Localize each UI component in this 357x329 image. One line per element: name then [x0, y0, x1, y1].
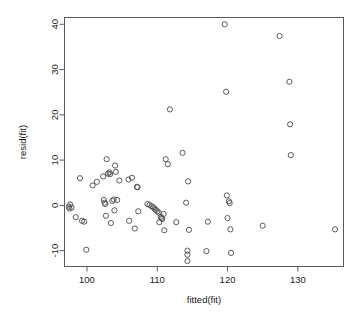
data-point: [167, 107, 172, 112]
data-point: [136, 209, 141, 214]
data-point: [228, 227, 233, 232]
data-point: [101, 174, 106, 179]
data-point: [162, 228, 167, 233]
data-point: [113, 163, 118, 168]
data-point: [94, 179, 99, 184]
x-tick-label: 120: [220, 274, 236, 285]
y-tick-label: 30: [49, 64, 60, 75]
data-point: [110, 198, 115, 203]
data-point: [163, 157, 168, 162]
data-points-group: [66, 22, 338, 264]
y-axis-title: resid(fit): [17, 125, 28, 159]
data-point: [288, 153, 293, 158]
data-point: [77, 176, 82, 181]
y-tick-label: -10: [49, 244, 60, 258]
scatter-plot-canvas: 100110120130-10010203040fitted(fit)resid…: [0, 0, 357, 329]
data-point: [115, 197, 120, 202]
data-point: [228, 250, 233, 255]
y-tick-label: 20: [49, 110, 60, 121]
data-point: [224, 89, 229, 94]
data-point: [287, 79, 292, 84]
data-point: [127, 218, 132, 223]
data-point: [103, 213, 108, 218]
data-point: [287, 122, 292, 127]
data-point: [117, 178, 122, 183]
data-point: [174, 220, 179, 225]
data-point: [332, 227, 337, 232]
data-point: [186, 227, 191, 232]
y-tick-label: 40: [49, 19, 60, 30]
data-point: [205, 219, 210, 224]
data-point: [180, 150, 185, 155]
residual-plot: 100110120130-10010203040fitted(fit)resid…: [0, 0, 357, 329]
data-point: [186, 179, 191, 184]
data-point: [222, 22, 227, 27]
data-point: [204, 249, 209, 254]
data-point: [185, 258, 190, 263]
data-point: [260, 223, 265, 228]
data-point: [112, 208, 117, 213]
data-point: [73, 215, 78, 220]
data-point: [224, 193, 229, 198]
data-point: [165, 162, 170, 167]
plot-frame: [65, 18, 344, 267]
data-point: [227, 201, 232, 206]
data-point: [113, 169, 118, 174]
x-tick-label: 110: [150, 274, 165, 285]
y-tick-label: 10: [49, 155, 60, 166]
data-point: [108, 220, 113, 225]
data-point: [277, 33, 282, 38]
data-point: [132, 226, 137, 231]
data-point: [84, 247, 89, 252]
y-tick-label: 0: [49, 203, 60, 208]
x-tick-label: 100: [79, 274, 95, 285]
data-point: [225, 215, 230, 220]
x-axis-title: fitted(fit): [187, 294, 221, 305]
data-point: [104, 157, 109, 162]
x-tick-label: 130: [290, 274, 306, 285]
data-point: [183, 200, 188, 205]
